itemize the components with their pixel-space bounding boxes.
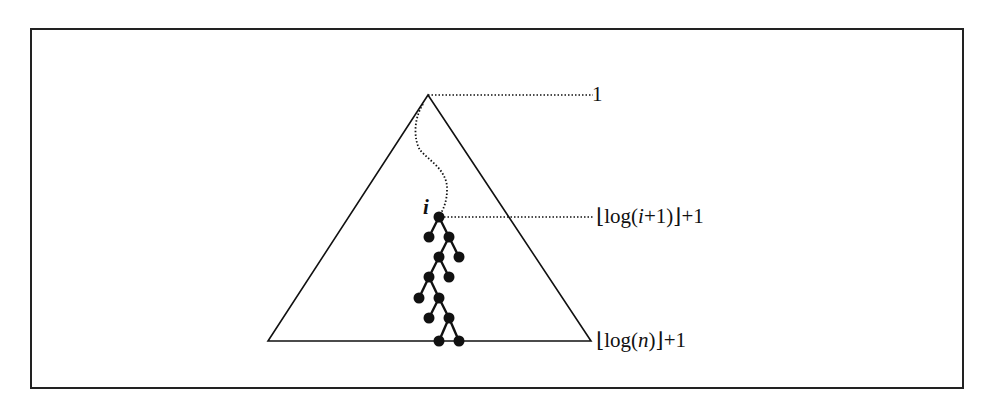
subtree-nodes [414,212,465,347]
bottom-level-var: n [638,328,649,352]
root-to-i-dotted-path [415,104,447,213]
node-i-level-label: ⌊log(i+1)⌋+1 [596,206,704,227]
node-i-label: i [423,197,429,218]
diagram-canvas [0,0,993,414]
node-i-text: i [423,195,429,219]
bottom-level-label: ⌊log(n)⌋+1 [596,330,686,351]
bottom-level-suffix: )⌋+1 [649,328,687,352]
tree-triangle [268,95,591,341]
node-i-level-suffix: +1)⌋+1 [644,204,704,228]
node-i [434,212,445,223]
root-level-value: 1 [592,82,603,106]
node-i-level-prefix: ⌊log( [596,204,638,228]
bottom-level-prefix: ⌊log( [596,328,638,352]
root-level-label: 1 [592,84,603,105]
frame-border [31,29,963,388]
